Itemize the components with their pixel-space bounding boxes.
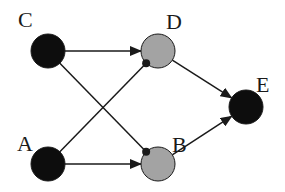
edges-group [60,51,232,164]
node-a [31,147,65,181]
inhibit-dot-icon [142,59,150,67]
node-label-d: D [166,9,182,34]
network-diagram: CDEAB [0,0,285,192]
node-c [31,34,65,68]
node-label-a: A [17,131,33,156]
node-label-b: B [172,132,187,157]
labels-group: CDEAB [17,7,269,157]
nodes-group [31,34,263,181]
edge-d-to-e [172,60,231,98]
node-label-e: E [256,72,269,97]
inhibit-dot-icon [142,148,150,156]
node-label-c: C [18,7,33,32]
